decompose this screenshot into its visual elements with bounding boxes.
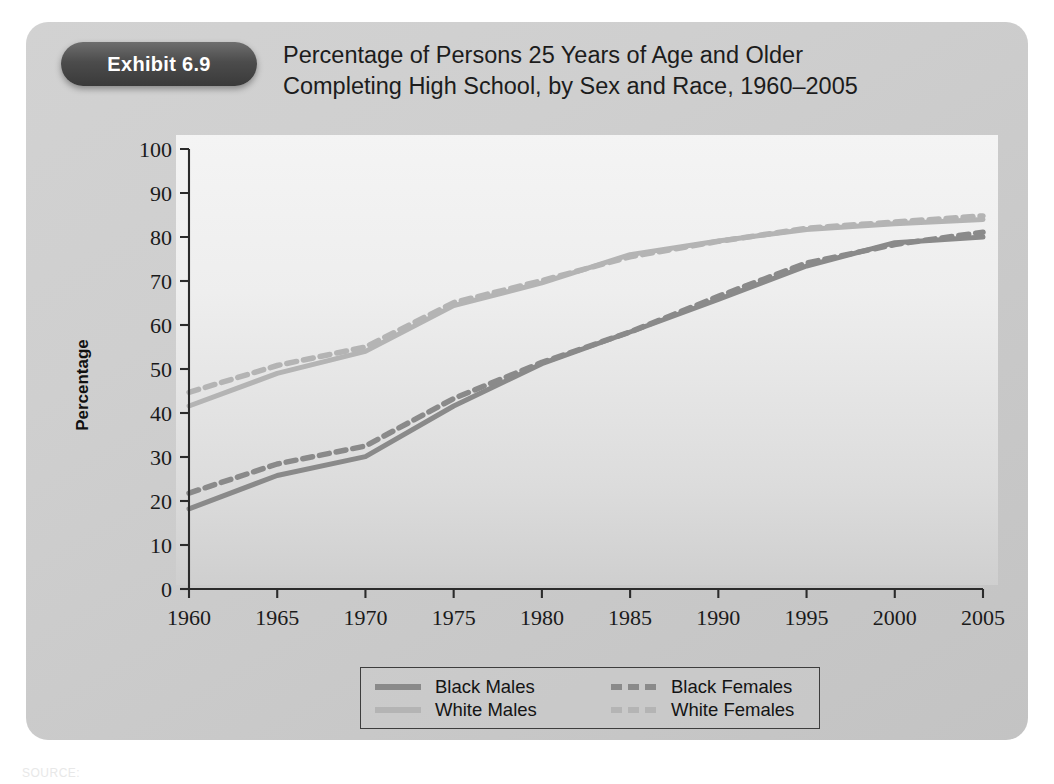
legend-label-white-males: White Males — [435, 699, 537, 721]
legend-row-1: Black Males Black Females — [375, 675, 805, 698]
legend-item-black-females: Black Females — [611, 676, 792, 698]
y-tick-label: 0 — [161, 577, 172, 602]
y-tick-label: 40 — [150, 401, 172, 426]
y-tick-label: 50 — [150, 357, 172, 382]
y-tick-label: 70 — [150, 269, 172, 294]
y-tick-label: 80 — [150, 225, 172, 250]
x-tick-label: 1970 — [343, 605, 387, 630]
page-title-line-1: Percentage of Persons 25 Years of Age an… — [283, 40, 983, 71]
x-tick-label: 1980 — [520, 605, 564, 630]
y-tick-label: 30 — [150, 445, 172, 470]
x-tick-label: 1975 — [432, 605, 476, 630]
x-tick-label: 2000 — [873, 605, 917, 630]
x-tick-label: 1965 — [255, 605, 299, 630]
x-tick-label: 1995 — [785, 605, 829, 630]
legend-item-white-males: White Males — [375, 699, 611, 721]
y-tick-label: 90 — [150, 181, 172, 206]
x-tick-label: 1990 — [696, 605, 740, 630]
x-tick-label: 1960 — [167, 605, 211, 630]
legend-item-white-females: White Females — [611, 699, 794, 721]
legend-row-2: White Males White Females — [375, 698, 805, 721]
page-title-line-2: Completing High School, by Sex and Race,… — [283, 71, 983, 102]
legend-swatch-white-males — [375, 707, 421, 713]
legend-item-black-males: Black Males — [375, 676, 611, 698]
series-line-black-males — [189, 237, 983, 509]
y-axis-ticks: 0102030405060708090100 — [139, 137, 189, 602]
legend-label-black-males: Black Males — [435, 676, 535, 698]
source-note: SOURCE: — [22, 766, 80, 780]
exhibit-card: Exhibit 6.9 Percentage of Persons 25 Yea… — [26, 22, 1028, 740]
exhibit-badge-label: Exhibit 6.9 — [107, 53, 210, 76]
y-axis-title: Percentage — [73, 339, 92, 431]
exhibit-badge: Exhibit 6.9 — [61, 42, 257, 86]
y-tick-label: 20 — [150, 489, 172, 514]
x-axis-ticks: 1960196519701975198019851990199520002005 — [167, 589, 1005, 630]
x-tick-label: 2005 — [961, 605, 1005, 630]
series-line-white-males — [189, 219, 983, 406]
chart-legend: Black Males Black Females White Males Wh… — [360, 667, 820, 729]
y-tick-label: 100 — [139, 137, 172, 162]
legend-swatch-white-females — [611, 707, 657, 713]
y-tick-label: 60 — [150, 313, 172, 338]
legend-label-white-females: White Females — [671, 699, 794, 721]
series-group — [189, 216, 983, 509]
y-tick-label: 10 — [150, 533, 172, 558]
x-tick-label: 1985 — [608, 605, 652, 630]
legend-label-black-females: Black Females — [671, 676, 792, 698]
chart-area: 0102030405060708090100 19601965197019751… — [26, 117, 1028, 637]
legend-swatch-black-males — [375, 684, 421, 690]
legend-swatch-black-females — [611, 684, 657, 690]
line-chart: 0102030405060708090100 19601965197019751… — [26, 117, 1028, 637]
page-title: Percentage of Persons 25 Years of Age an… — [283, 40, 983, 102]
